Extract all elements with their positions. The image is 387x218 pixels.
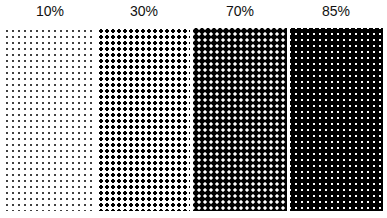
halftone-panel-70 — [193, 28, 287, 211]
halftone-panel-10 — [5, 28, 95, 211]
label-30-percent: 30% — [97, 3, 191, 19]
label-70-percent: 70% — [193, 3, 287, 19]
label-85-percent: 85% — [289, 3, 383, 19]
label-10-percent: 10% — [3, 3, 97, 19]
halftone-panel-30 — [98, 28, 190, 211]
halftone-panel-85 — [290, 28, 383, 211]
